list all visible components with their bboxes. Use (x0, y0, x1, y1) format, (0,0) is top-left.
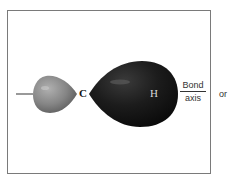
bond-axis-label-bottom: axis (180, 92, 206, 103)
atom-label-h: H (150, 87, 158, 99)
atom-label-c: C (79, 87, 87, 99)
small-lobe-highlight (41, 86, 49, 90)
large-lobe-highlight (110, 80, 130, 85)
bond-axis-label-top: Bond (180, 80, 206, 92)
trailing-or-text: or (219, 89, 227, 99)
large-lobe (89, 61, 178, 127)
small-lobe (33, 76, 77, 113)
bond-axis-label: Bond axis (180, 80, 206, 103)
